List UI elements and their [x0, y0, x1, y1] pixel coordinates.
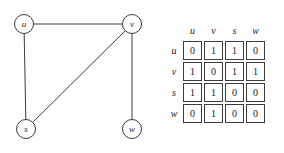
matrix-cell: 1	[225, 62, 244, 81]
matrix-row-s: s 1 1 0 0	[167, 83, 265, 102]
matrix-row-header-u: u	[167, 41, 181, 60]
matrix-col-header-v: v	[204, 22, 223, 39]
matrix-cell: 1	[246, 62, 265, 81]
matrix-row-header-s: s	[167, 83, 181, 102]
matrix-cell: 0	[246, 83, 265, 102]
matrix-row-v: v 1 0 1 1	[167, 62, 265, 81]
matrix-cell: 0	[204, 62, 223, 81]
matrix-cell: 1	[204, 41, 223, 60]
matrix-cell: 0	[225, 104, 244, 123]
node-u-label: u	[22, 19, 27, 29]
matrix-row-header-w: w	[167, 104, 181, 123]
node-s-label: s	[24, 124, 28, 134]
adjacency-matrix: u v s w u 0 1 1 0 v 1 0 1 1 s 1	[165, 20, 267, 125]
node-s: s	[17, 120, 36, 139]
node-w-label: w	[129, 124, 135, 134]
matrix-cell: 1	[204, 83, 223, 102]
matrix-col-header-w: w	[246, 22, 265, 39]
matrix-col-header-u: u	[183, 22, 202, 39]
matrix-cell: 0	[246, 104, 265, 123]
edge-u-s	[24, 24, 26, 129]
node-v: v	[123, 15, 142, 34]
matrix-row-u: u 0 1 1 0	[167, 41, 265, 60]
graph-diagram: u v s w	[0, 0, 162, 153]
matrix-header-row: u v s w	[167, 22, 265, 39]
node-w: w	[123, 120, 142, 139]
matrix-col-header-s: s	[225, 22, 244, 39]
page: u v s w u v s w u 0 1	[0, 0, 284, 153]
matrix-corner	[167, 22, 181, 39]
matrix-cell: 0	[246, 41, 265, 60]
matrix-cell: 0	[183, 41, 202, 60]
adjacency-matrix-container: u v s w u 0 1 1 0 v 1 0 1 1 s 1	[165, 20, 267, 125]
matrix-cell: 1	[225, 41, 244, 60]
node-u: u	[15, 15, 34, 34]
matrix-row-header-v: v	[167, 62, 181, 81]
matrix-row-w: w 0 1 0 0	[167, 104, 265, 123]
matrix-cell: 1	[183, 83, 202, 102]
matrix-cell: 0	[225, 83, 244, 102]
matrix-cell: 1	[183, 62, 202, 81]
node-v-label: v	[130, 19, 134, 29]
matrix-cell: 0	[183, 104, 202, 123]
edge-v-s	[26, 24, 132, 129]
matrix-cell: 1	[204, 104, 223, 123]
